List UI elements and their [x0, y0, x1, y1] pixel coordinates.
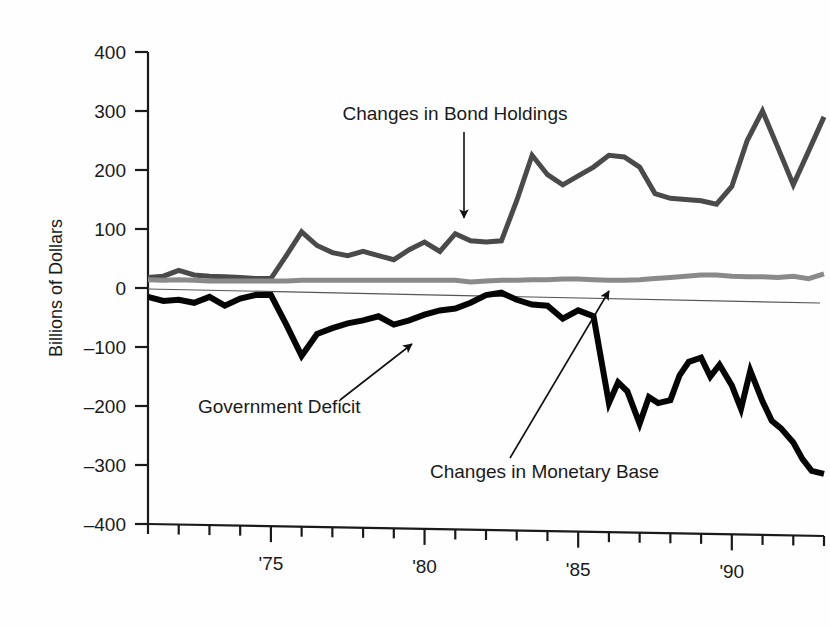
- y-tick-label: 200: [94, 160, 126, 181]
- chart-figure: Billions of Dollars 4003002001000–100–20…: [0, 0, 830, 629]
- x-tick-label: '90: [719, 561, 744, 582]
- y-tick-label: 300: [94, 101, 126, 122]
- series-line-government-deficit: [148, 293, 824, 474]
- annotation-label: Changes in Monetary Base: [430, 461, 659, 482]
- y-tick-label: –100: [84, 337, 126, 358]
- x-tick-label: '75: [259, 553, 284, 574]
- y-axis-ticks: 4003002001000–100–200–300–400: [84, 42, 148, 535]
- x-tick-label: '85: [566, 559, 591, 580]
- x-axis-ticks: '75'80'85'90: [148, 524, 824, 582]
- y-tick-label: –300: [84, 455, 126, 476]
- annotation-label: Changes in Bond Holdings: [343, 103, 568, 124]
- y-tick-label: 400: [94, 42, 126, 63]
- series-lines: [148, 111, 824, 474]
- y-tick-label: –200: [84, 396, 126, 417]
- y-axis-title: Billions of Dollars: [46, 219, 66, 357]
- y-tick-label: –400: [84, 514, 126, 535]
- annotation-label: Government Deficit: [198, 396, 361, 417]
- x-tick-label: '80: [412, 556, 437, 577]
- series-line-changes-in-bond-holdings: [148, 111, 824, 279]
- y-tick-label: 100: [94, 219, 126, 240]
- y-tick-label: 0: [115, 278, 126, 299]
- annotation-arrow: [340, 344, 412, 400]
- line-chart: Billions of Dollars 4003002001000–100–20…: [0, 0, 830, 629]
